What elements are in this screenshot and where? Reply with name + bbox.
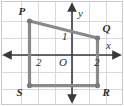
vertex-label-p: P	[19, 6, 26, 17]
vertex-label-r: R	[103, 87, 110, 98]
x-axis-label: x	[106, 40, 111, 51]
vertex-marker-p	[27, 18, 32, 23]
y-axis-label: y	[78, 8, 83, 19]
x-tick-label-positive-2: 2	[94, 57, 100, 68]
vertex-marker-s	[27, 83, 32, 88]
y-tick-label-1: 1	[62, 31, 68, 42]
x-tick-label-negative-2: 2	[36, 57, 42, 68]
coordinate-plane-figure: PQRS x y O 2 2 1	[0, 0, 124, 106]
vertex-marker-q	[95, 35, 100, 40]
vertex-label-q: Q	[103, 23, 111, 34]
vertex-label-s: S	[17, 87, 23, 98]
vertex-marker-r	[95, 83, 100, 88]
origin-label: O	[59, 57, 67, 68]
